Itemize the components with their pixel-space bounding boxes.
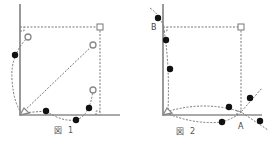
diagram-canvas: 図 1 B A 図 2 [0, 0, 274, 144]
filled-point [226, 104, 232, 110]
open-point [90, 42, 96, 48]
figure-2: B A 図 2 [150, 4, 268, 136]
filled-point [12, 52, 18, 58]
label-b: B [151, 23, 157, 32]
figure-1-caption-mark: 図 [54, 126, 62, 135]
filled-point [247, 95, 253, 101]
filled-point [155, 15, 161, 21]
figure-2-caption-mark: 図 [176, 127, 184, 136]
open-point [90, 87, 96, 93]
origin-marker [20, 108, 29, 115]
origin-marker [163, 108, 172, 115]
label-a: A [238, 122, 244, 131]
figure-1-caption-number: 1 [68, 126, 73, 135]
corner-square [97, 24, 103, 30]
figure-2-caption-number: 2 [190, 127, 195, 136]
filled-point [86, 105, 92, 111]
diagonal-dashed-line [22, 45, 93, 113]
bottom-arc [22, 90, 93, 120]
figure-1: 図 1 [12, 4, 120, 135]
filled-point [257, 118, 263, 124]
filled-point [163, 37, 169, 43]
filled-point [73, 117, 79, 123]
open-point [25, 34, 31, 40]
filled-point [219, 119, 225, 125]
corner-square [238, 24, 244, 30]
filled-point [43, 108, 49, 114]
filled-point [167, 66, 173, 72]
